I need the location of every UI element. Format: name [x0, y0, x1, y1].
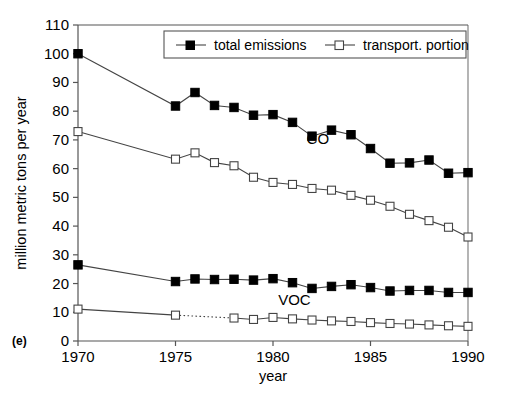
data-point-1979-7.5	[250, 315, 258, 323]
data-point-1978-21.5	[230, 275, 238, 283]
data-point-1976-86.5	[191, 88, 199, 96]
data-point-1988-41.9	[425, 217, 433, 225]
panel-label: (e)	[12, 334, 27, 348]
y-tick-label-50: 50	[52, 188, 69, 205]
data-point-1976-65.5	[191, 149, 199, 157]
y-tick-label-110: 110	[45, 16, 69, 33]
data-point-1982-53.1	[308, 184, 316, 192]
data-point-1988-17.6	[425, 286, 433, 294]
x-tick-label-1975: 1975	[159, 348, 192, 365]
data-point-1989-16.9	[444, 288, 452, 296]
data-point-1987-17.6	[405, 286, 413, 294]
y-tick-label-90: 90	[52, 73, 69, 90]
data-point-1975-20.7	[171, 277, 179, 285]
data-point-1984-19.6	[347, 280, 355, 288]
data-point-1989-39.6	[445, 223, 453, 231]
legend-marker-transport-portion	[335, 41, 344, 50]
data-point-1983-7	[328, 317, 336, 325]
data-point-1977-21.4	[210, 275, 218, 283]
y-tick-label-70: 70	[52, 131, 69, 148]
data-point-1981-76.1	[288, 118, 296, 126]
series-voc-transport-portion	[74, 305, 472, 330]
y-tick-label-80: 80	[52, 102, 69, 119]
x-tick-label-1970: 1970	[61, 348, 94, 365]
chart-legend: total emissions transport. portion	[164, 31, 469, 58]
data-point-1984-6.8	[347, 317, 355, 325]
y-axis-title: million metric tons per year	[13, 96, 29, 269]
data-point-1980-55.2	[269, 178, 277, 186]
annotation-voc: VOC	[278, 291, 311, 308]
data-point-1982-7.3	[308, 316, 316, 324]
data-point-1978-61	[230, 162, 238, 170]
series-layer	[74, 50, 472, 331]
y-tick-label-30: 30	[52, 246, 69, 263]
data-point-1990-16.9	[464, 288, 472, 296]
data-point-1985-67	[366, 144, 374, 152]
x-axis-ticks: 19701975198019851990	[61, 341, 484, 365]
data-point-1984-50.7	[347, 191, 355, 199]
data-point-1987-44.1	[406, 210, 414, 218]
data-point-1990-36.2	[464, 233, 472, 241]
data-point-1979-78.6	[249, 111, 257, 119]
data-point-1989-5.3	[445, 322, 453, 330]
data-point-1981-7.7	[289, 315, 297, 323]
y-axis-ticks: 0102030405060708090100110	[44, 16, 78, 349]
series-line	[78, 309, 176, 315]
data-point-1979-21.2	[249, 276, 257, 284]
series-co-transport-portion	[74, 128, 472, 241]
data-point-1979-57	[250, 173, 258, 181]
data-point-1977-62.1	[211, 159, 219, 167]
series-line-dotted	[176, 315, 235, 318]
data-point-1978-8	[230, 314, 238, 322]
legend-label-total-emissions: total emissions	[214, 37, 307, 53]
x-tick-label-1990: 1990	[451, 348, 484, 365]
data-point-1985-49	[367, 196, 375, 204]
x-axis-title: year	[259, 368, 287, 384]
data-point-1986-61.9	[386, 159, 394, 167]
data-point-1987-5.9	[406, 320, 414, 328]
x-tick-label-1985: 1985	[354, 348, 387, 365]
data-point-1981-54.5	[289, 180, 297, 188]
line-chart: 0102030405060708090100110 19701975198019…	[0, 0, 510, 404]
data-point-1988-5.6	[425, 321, 433, 329]
data-point-1980-8.2	[269, 313, 277, 321]
series-voc-total-emissions	[74, 261, 472, 297]
y-tick-label-60: 60	[52, 160, 69, 177]
data-point-1986-17.4	[386, 287, 394, 295]
data-point-1975-81.8	[171, 102, 179, 110]
data-point-1970-26.5	[74, 261, 82, 269]
y-tick-label-20: 20	[52, 275, 69, 292]
data-point-1970-100	[74, 50, 82, 58]
data-point-1983-52.5	[328, 186, 336, 194]
data-point-1980-21.7	[269, 274, 277, 282]
data-point-1985-6.4	[367, 319, 375, 327]
data-point-1977-82	[210, 101, 218, 109]
y-tick-label-10: 10	[52, 303, 69, 320]
data-point-1970-11.1	[74, 305, 82, 313]
data-point-1990-5.1	[464, 322, 472, 330]
data-point-1988-63	[425, 156, 433, 164]
data-point-1985-18.6	[366, 283, 374, 291]
data-point-1976-21.6	[191, 275, 199, 283]
data-point-1981-20.3	[288, 278, 296, 286]
data-point-1978-81.3	[230, 103, 238, 111]
data-point-1970-72.9	[74, 128, 82, 136]
legend-label-transport-portion: transport. portion	[363, 37, 469, 53]
annotation-co: CO	[307, 130, 330, 147]
data-point-1984-71.8	[347, 131, 355, 139]
x-tick-label-1980: 1980	[256, 348, 289, 365]
data-point-1987-62	[405, 159, 413, 167]
legend-marker-total-emissions	[186, 41, 195, 50]
data-point-1983-19	[327, 282, 335, 290]
data-point-1980-78.8	[269, 110, 277, 118]
data-point-1975-9	[172, 311, 180, 319]
y-tick-label-0: 0	[61, 332, 69, 349]
data-point-1986-46.9	[386, 202, 394, 210]
y-tick-label-100: 100	[44, 45, 69, 62]
data-point-1986-6.1	[386, 319, 394, 327]
y-tick-label-40: 40	[52, 217, 69, 234]
data-point-1989-58.4	[444, 169, 452, 177]
series-co-total-emissions	[74, 50, 472, 178]
chart-figure: 0102030405060708090100110 19701975198019…	[0, 0, 510, 404]
data-point-1990-58.6	[464, 168, 472, 176]
